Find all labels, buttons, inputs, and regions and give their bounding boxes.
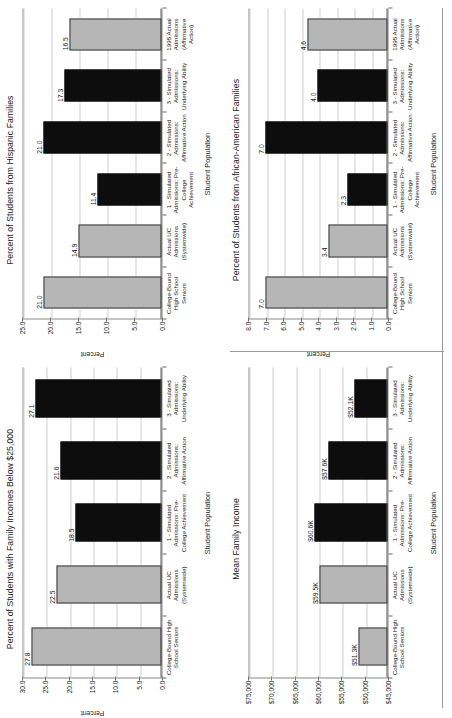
y-axis-tick-label: 1.0 [367, 321, 374, 330]
bar-slot: 17.3 [23, 60, 161, 112]
bar-slot: 21.6 [23, 429, 161, 491]
y-axis-tick-label: 5.0 [135, 680, 142, 689]
x-axis-category-labels: College-Bound High School SeniorsActual … [390, 367, 426, 678]
y-axis-tick-label: 15.0 [89, 680, 96, 693]
x-axis-category-label: 3 - Simulated Admissions: Underlying Abi… [390, 60, 426, 112]
bar-slot: 4.6 [249, 8, 387, 60]
y-axis-tick-label: 8.0 [245, 321, 252, 330]
page-edge-rule-horizontal [230, 351, 444, 352]
x-axis-category-label: College-Bound High School Seniors [390, 267, 426, 319]
x-axis-category-label: 2 - Simulated Admissions: Affirmative Ac… [390, 429, 426, 491]
plot-area: 7.03.42.37.04.04.6 [248, 8, 388, 319]
x-axis-category-label: Actual UC Admissions (Systemwide) [390, 215, 426, 267]
y-axis-tick-label: 0.0 [159, 680, 166, 689]
x-axis-category-label: 1 - Simulated Admissions: Pre-College Ac… [390, 164, 426, 216]
x-axis-category-label: College-Bound High School Seniors [164, 267, 200, 319]
y-axis-tick-labels: $45,000$50,000$55,000$60,000$65,000$70,0… [248, 680, 388, 718]
y-axis-tick-label: 6.0 [280, 321, 287, 330]
y-axis-tick-label: 20.0 [47, 321, 54, 334]
y-axis-tick-labels: 0.05.010.015.020.025.030.0 [22, 680, 162, 718]
bar-slot: 27.8 [23, 615, 161, 677]
bar-value-label: 4.0 [309, 92, 316, 101]
plot-area: 21.014.911.421.017.316.5 [22, 8, 162, 319]
bar-slot: $59.5K [249, 553, 387, 615]
x-axis-title: Student Population [428, 367, 437, 678]
bar: 2.3 [347, 173, 387, 205]
bar-series: $51.3K$59.5K$60.6K$57.6K$52.1K [249, 367, 387, 677]
bar-value-label: 16.5 [61, 37, 68, 50]
y-axis-tick-label: 15.0 [75, 321, 82, 334]
plot-area: 27.822.518.521.627.1 [22, 367, 162, 678]
bar-series: 27.822.518.521.627.1 [23, 367, 161, 677]
x-axis-category-label: College-Bound High School Seniors [390, 616, 426, 678]
bar-slot: 7.0 [249, 111, 387, 163]
bar: $60.6K [314, 503, 387, 541]
chart-panel-hispanic-families: Percent of Students from Hispanic Famili… [0, 0, 226, 359]
y-axis-tick-label: 5.0 [297, 321, 304, 330]
bar-value-label: 4.6 [299, 40, 306, 49]
bar-slot: $52.1K [249, 367, 387, 429]
bar-value-label: $60.6K [306, 520, 313, 542]
x-axis-category-labels: College-Bound High School SeniorsActual … [390, 8, 426, 319]
bar: 21.6 [60, 441, 161, 479]
bar: 7.0 [265, 121, 388, 153]
page-edge-rule-vertical [442, 8, 443, 708]
bar-slot: 7.0 [249, 266, 387, 318]
y-axis-tick-labels: 0.05.010.015.020.025.0 [22, 321, 162, 359]
x-axis-line [386, 8, 387, 318]
bar: $52.1K [354, 379, 387, 417]
y-axis-tick-label: 10.0 [112, 680, 119, 693]
chart-title: Percent of Students with Family Incomes … [4, 359, 14, 718]
plot-area: $51.3K$59.5K$60.6K$57.6K$52.1K [248, 367, 388, 678]
y-axis-tick-label: 30.0 [19, 680, 26, 693]
bar: 22.5 [56, 565, 161, 603]
bar-value-label: 7.0 [257, 144, 264, 153]
bar-slot: 11.4 [23, 163, 161, 215]
y-axis-tick-label: 10.0 [103, 321, 110, 334]
bar-slot: 22.5 [23, 553, 161, 615]
bar-slot: $51.3K [249, 615, 387, 677]
bar-value-label: $59.5K [311, 582, 318, 604]
x-axis-category-label: 2 - Simulated Admissions: Affirmative Ac… [164, 112, 200, 164]
x-axis-line [160, 367, 161, 677]
y-axis-tick-label: 7.0 [262, 321, 269, 330]
y-axis-tick-label: 4.0 [315, 321, 322, 330]
x-axis-category-label: College-Bound High School Seniors [164, 616, 200, 678]
y-axis-tick-label: 3.0 [332, 321, 339, 330]
bar-value-label: 14.9 [70, 243, 77, 256]
bar-value-label: 7.0 [257, 299, 264, 308]
bar: $57.6K [328, 441, 387, 479]
bar-slot: 3.4 [249, 215, 387, 267]
plot-frame: 21.014.911.421.017.316.5 [22, 8, 162, 319]
bar-value-label: $51.3K [350, 644, 357, 666]
bar-value-label: 27.8 [23, 652, 30, 665]
bar: 16.5 [69, 18, 161, 50]
chart-african-american-families: Percent of Students from African-America… [226, 0, 452, 359]
plot-frame: 27.822.518.521.627.1 [22, 367, 162, 678]
bar-value-label: 2.3 [339, 195, 346, 204]
chart-title: Percent of Students from Hispanic Famili… [4, 0, 14, 359]
chart-mean-family-income: Mean Family Income$45,000$50,000$55,000$… [226, 359, 452, 718]
bar-value-label: 3.4 [320, 247, 327, 256]
bar: 4.0 [317, 69, 387, 101]
bar: 21.0 [43, 121, 161, 153]
bar-slot: 21.0 [23, 266, 161, 318]
bar-value-label: 22.5 [48, 590, 55, 603]
bar-value-label: 21.6 [52, 466, 59, 479]
x-axis-category-label: 1 - Simulated Admissions: Pre-College Ac… [164, 164, 200, 216]
y-axis-tick-labels: 0.01.02.03.04.05.06.07.08.0 [248, 321, 388, 359]
y-axis-tick-label: 20.0 [65, 680, 72, 693]
x-axis-category-labels: College-Bound High School SeniorsActual … [164, 8, 200, 319]
bar: $51.3K [358, 627, 387, 665]
plot-frame: 7.03.42.37.04.04.6 [248, 8, 388, 319]
bar-slot: 18.5 [23, 491, 161, 553]
chart-panel-african-american-families: Percent of Students from African-America… [226, 0, 452, 359]
bar: 21.0 [43, 276, 161, 308]
bar-value-label: 18.5 [67, 528, 74, 541]
y-axis-tick-label: 2.0 [350, 321, 357, 330]
y-axis-tick-label: 0.0 [385, 321, 392, 330]
chart-panel-family-incomes-below-25000: Percent of Students with Family Incomes … [0, 359, 226, 718]
y-axis-tick-label: $45,000 [385, 680, 392, 704]
bar-value-label: 21.0 [35, 140, 42, 153]
y-axis-tick-label: $50,000 [361, 680, 368, 704]
